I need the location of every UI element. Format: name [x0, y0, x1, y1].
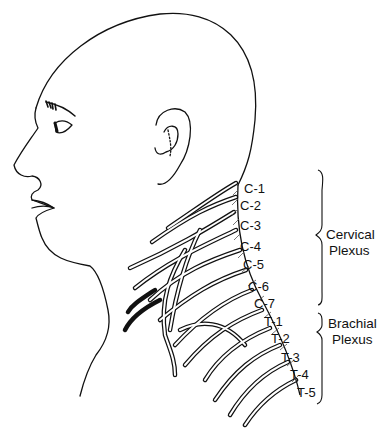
label-t5: T-5 — [297, 386, 316, 399]
cervical-line2: Plexus — [326, 243, 375, 259]
label-c4: C-4 — [240, 240, 261, 253]
brachial-line1: Brachial — [328, 316, 377, 332]
label-c2: C-2 — [240, 199, 261, 212]
label-t3: T-3 — [281, 351, 300, 364]
plexus-illustration — [0, 0, 385, 428]
lips — [32, 200, 54, 208]
label-t4: T-4 — [290, 368, 309, 381]
label-c3: C-3 — [240, 219, 261, 232]
label-c7: C-7 — [254, 297, 275, 310]
cervical-plexus-label: Cervical Plexus — [326, 227, 375, 259]
label-c6: C-6 — [248, 280, 269, 293]
head-outline — [36, 13, 256, 185]
brachial-brace — [317, 313, 322, 404]
label-c1: C-1 — [244, 182, 265, 195]
brachial-line2: Plexus — [328, 332, 377, 348]
ear — [156, 109, 190, 184]
label-t2: T-2 — [271, 332, 290, 345]
brachial-plexus-label: Brachial Plexus — [328, 316, 377, 348]
label-c5: C-5 — [243, 258, 264, 271]
label-t1: T-1 — [264, 315, 283, 328]
face-profile — [14, 108, 109, 396]
cervical-line1: Cervical — [326, 227, 375, 243]
cervical-brace — [316, 170, 323, 305]
